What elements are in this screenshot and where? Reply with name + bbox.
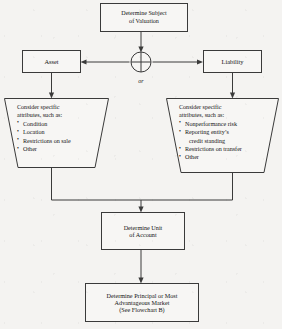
bullet-text-continuation: credit standing [185,137,269,145]
list-item: Location [17,128,99,136]
wire-liability-attributes-to-merge [141,173,233,200]
node-label: Asset [25,58,78,66]
crossed-circle-connector-icon [130,51,152,73]
node-line: Determine Principal or Most [88,292,196,299]
node-liability-attributes[interactable]: Consider specific attributes, such as: N… [166,98,279,173]
node-determine-unit-of-account[interactable]: Determine Unit of Account [101,212,185,250]
list-item: Restrictions on transfer [179,145,269,153]
node-determine-subject-of-valuation[interactable]: Determine Subject of Valuation [100,3,188,32]
node-line: Determine Subject [103,10,185,17]
wire-asset-attributes-to-merge [52,168,142,200]
list-item: Condition [17,120,99,128]
node-determine-principal-market[interactable]: Determine Principal or Most Advantageous… [85,283,199,322]
bullet-text: Restrictions on sale [23,138,71,144]
liability-attributes-bullet-list: Nonperformance risk Reporting entity’s c… [179,120,269,162]
node-line: of Valuation [103,18,185,25]
node-line: (See Flowchart B) [88,306,196,313]
bullet-text: Restrictions on transfer [185,146,242,152]
node-line: Advantageous Market [88,299,196,306]
liability-attributes-text: Consider specific attributes, such as: N… [166,98,279,173]
node-label: Liability [206,58,259,66]
asset-attributes-bullet-list: Condition Location Restrictions on sale … [17,120,99,154]
connector-or-label: or [131,78,151,84]
asset-attributes-text: Consider specific attributes, such as: C… [4,98,109,168]
arrowhead-into-asset [81,59,87,64]
node-asset[interactable]: Asset [22,50,81,73]
list-item: Restrictions on sale [17,137,99,145]
node-asset-attributes[interactable]: Consider specific attributes, such as: C… [4,98,109,168]
attributes-heading-line: Consider specific [179,103,269,111]
list-item: Other [17,145,99,153]
bullet-text: Other [185,154,199,160]
list-item: Nonperformance risk [179,120,269,128]
attributes-heading-line: attributes, such as: [179,111,269,119]
node-line: Determine Unit [104,224,182,231]
node-liability[interactable]: Liability [203,50,262,73]
list-item: Other [179,153,269,161]
bullet-text: Other [23,146,37,152]
bullet-text: Location [23,129,45,135]
bullet-text: Condition [23,121,47,127]
flowchart-canvas: Determine Subject of Valuation or Asset … [0,0,282,329]
attributes-heading-line: Consider specific [17,103,99,111]
bullet-text: Nonperformance risk [185,121,237,127]
list-item: Reporting entity’s credit standing [179,128,269,145]
node-line: of Account [104,231,182,238]
bullet-text: Reporting entity’s [185,129,229,135]
attributes-heading-line: attributes, such as: [17,111,99,119]
